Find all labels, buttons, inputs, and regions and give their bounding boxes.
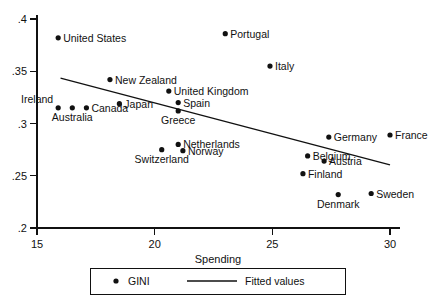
data-point: New Zealand [107,74,177,86]
data-point: Portugal [223,28,270,40]
data-point: Sweden [369,188,415,200]
data-point: France [387,129,427,141]
data-point-label: Switzerland [135,153,189,165]
legend-label-gini: GINI [128,275,150,287]
y-tick-label: .35 [12,65,27,77]
chart-legend: GINIFitted values [90,268,345,294]
data-point-marker [117,101,122,106]
chart-canvas: .4.35.3.25.2 15202530 United StatesIrela… [0,0,439,299]
y-axis-ticks: .4.35.3.25.2 [12,13,37,234]
data-point-marker [176,142,181,147]
data-point: Denmark [317,192,360,210]
data-point-marker [223,31,228,36]
data-point: Italy [267,60,295,72]
data-point-label: Canada [91,102,128,114]
x-tick-label: 20 [149,238,161,250]
data-point: Germany [326,131,378,143]
legend-label-fitted: Fitted values [245,275,305,287]
data-point-marker [305,153,310,158]
data-point-label: Australia [52,111,93,123]
data-point-label: Greece [161,114,196,126]
data-point-marker [84,105,89,110]
data-point: United States [56,32,127,44]
y-tick-label: .3 [18,118,27,130]
data-point-label: Norway [188,145,224,157]
data-point-marker [369,191,374,196]
data-point-marker [70,105,75,110]
data-point-label: Ireland [21,93,53,105]
data-point-label: Sweden [376,188,414,200]
data-point-label: Japan [124,98,153,110]
data-point-label: Finland [308,168,343,180]
data-point-marker [56,35,61,40]
data-point: Greece [161,108,196,126]
data-point: Finland [300,168,342,180]
data-point-marker [180,148,185,153]
data-point-label: United Kingdom [174,85,249,97]
x-tick-label: 25 [266,238,278,250]
data-point: Ireland [21,93,61,111]
data-point-marker [326,134,331,139]
x-axis-ticks: 15202530 [31,228,396,250]
data-point-marker [56,105,61,110]
data-point-marker [166,89,171,94]
data-point-label: United States [63,32,126,44]
data-point-marker [107,77,112,82]
data-point-label: Denmark [317,198,360,210]
data-point-marker [159,147,164,152]
data-point-marker [176,108,181,113]
y-tick-label: .2 [18,222,27,234]
data-point-label: Italy [275,60,295,72]
legend-marker-gini [113,278,118,283]
x-tick-label: 15 [31,238,43,250]
x-tick-label: 30 [384,238,396,250]
data-point: United Kingdom [166,85,249,97]
data-point-label: Austria [329,155,362,167]
data-point: Spain [176,97,211,109]
data-point-marker [322,159,327,164]
data-point-marker [267,63,272,68]
data-point-marker [176,100,181,105]
data-point-marker [300,171,305,176]
data-points-group: United StatesIrelandAustraliaCanadaNew Z… [21,28,428,210]
data-point-label: Spain [183,97,210,109]
data-point-marker [387,132,392,137]
data-point-label: Portugal [230,28,269,40]
x-axis-title: Spending [195,253,242,265]
y-tick-label: .4 [18,13,27,25]
data-point-label: New Zealand [115,74,177,86]
data-point-marker [336,192,341,197]
data-point-label: France [395,129,428,141]
y-tick-label: .25 [12,170,27,182]
data-point-label: Germany [334,131,378,143]
scatter-chart-figure: .4.35.3.25.2 15202530 United StatesIrela… [0,0,439,299]
